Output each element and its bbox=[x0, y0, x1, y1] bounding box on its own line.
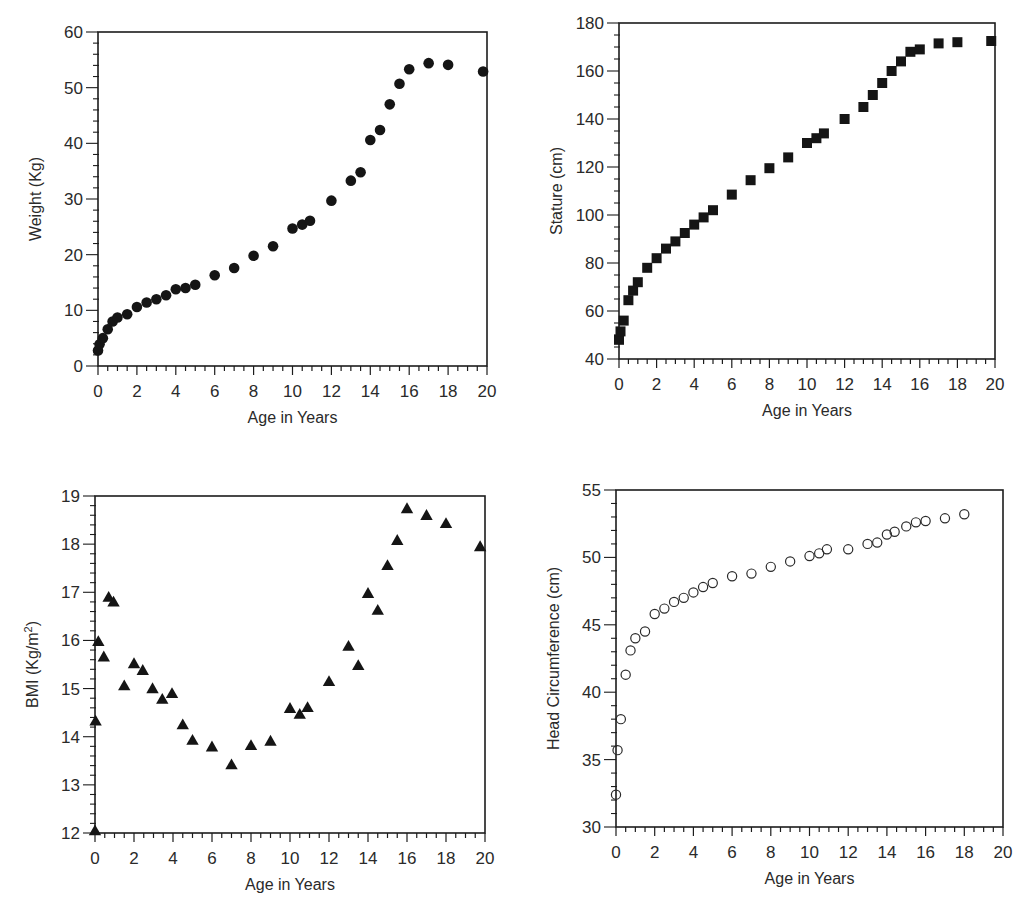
y-tick-label: 35 bbox=[582, 751, 601, 770]
x-tick-label: 20 bbox=[476, 849, 495, 868]
data-point-circle bbox=[141, 297, 152, 308]
data-point-triangle bbox=[225, 758, 237, 769]
data-point-triangle bbox=[146, 682, 158, 693]
y-tick-label: 60 bbox=[585, 302, 604, 321]
x-tick-label: 16 bbox=[910, 375, 929, 394]
data-series-stature bbox=[614, 36, 996, 345]
data-point-triangle bbox=[166, 687, 178, 698]
data-point-square bbox=[727, 190, 737, 200]
y-tick-label: 14 bbox=[61, 728, 80, 747]
data-point-square bbox=[783, 152, 793, 162]
x-tick-label: 18 bbox=[955, 843, 974, 862]
y-tick-label: 60 bbox=[64, 23, 83, 42]
y-tick-label: 10 bbox=[64, 301, 83, 320]
data-point-circle bbox=[394, 78, 405, 89]
data-point-open-circle bbox=[805, 551, 814, 560]
data-point-circle bbox=[326, 195, 337, 206]
data-point-triangle bbox=[284, 702, 296, 713]
chart-head-circumference: 02468101214161820303540455055Age in Year… bbox=[545, 481, 1012, 887]
data-point-open-circle bbox=[669, 597, 678, 606]
y-tick-label: 50 bbox=[582, 548, 601, 567]
x-tick-label: 12 bbox=[322, 382, 341, 401]
data-point-square bbox=[708, 205, 718, 215]
data-point-square bbox=[764, 163, 774, 173]
data-point-triangle bbox=[89, 824, 101, 835]
data-point-open-circle bbox=[631, 634, 640, 643]
x-tick-label: 4 bbox=[689, 843, 698, 862]
y-tick-label: 30 bbox=[582, 818, 601, 837]
data-point-square bbox=[616, 326, 626, 336]
x-tick-label: 2 bbox=[132, 382, 141, 401]
data-point-triangle bbox=[118, 679, 130, 690]
data-point-circle bbox=[355, 167, 366, 178]
x-tick-label: 16 bbox=[400, 382, 419, 401]
data-point-open-circle bbox=[640, 627, 649, 636]
data-point-open-circle bbox=[921, 516, 930, 525]
data-point-square bbox=[934, 38, 944, 48]
x-tick-label: 6 bbox=[210, 382, 219, 401]
x-tick-label: 8 bbox=[249, 382, 258, 401]
data-point-triangle bbox=[323, 675, 335, 686]
data-point-circle bbox=[375, 125, 386, 136]
y-axis-title: Stature (cm) bbox=[548, 147, 565, 235]
data-point-open-circle bbox=[679, 593, 688, 602]
x-axis-title: Age in Years bbox=[245, 876, 335, 893]
data-point-triangle bbox=[245, 739, 257, 750]
x-axis-title: Age in Years bbox=[765, 870, 855, 887]
data-point-square bbox=[986, 36, 996, 46]
data-point-triangle bbox=[401, 502, 413, 513]
y-tick-label: 15 bbox=[61, 680, 80, 699]
data-point-square bbox=[905, 47, 915, 57]
y-tick-label: 120 bbox=[576, 158, 604, 177]
y-tick-label: 20 bbox=[64, 246, 83, 265]
y-tick-label: 50 bbox=[64, 79, 83, 98]
data-point-square bbox=[952, 37, 962, 47]
y-tick-label: 30 bbox=[64, 190, 83, 209]
y-tick-label: 80 bbox=[585, 254, 604, 273]
data-point-circle bbox=[151, 294, 162, 305]
data-point-square bbox=[642, 263, 652, 273]
data-point-open-circle bbox=[902, 522, 911, 531]
x-axis-ticks bbox=[95, 833, 485, 842]
data-point-open-circle bbox=[613, 746, 622, 755]
y-tick-label: 18 bbox=[61, 535, 80, 554]
data-point-open-circle bbox=[650, 609, 659, 618]
x-tick-label: 16 bbox=[398, 849, 417, 868]
y-axis-title: Head Circumference (cm) bbox=[545, 567, 562, 750]
data-point-square bbox=[652, 253, 662, 263]
x-tick-label: 16 bbox=[916, 843, 935, 862]
x-tick-label: 14 bbox=[877, 843, 896, 862]
x-tick-label: 20 bbox=[478, 382, 497, 401]
data-point-triangle bbox=[264, 735, 276, 746]
y-tick-label: 17 bbox=[61, 583, 80, 602]
data-point-open-circle bbox=[626, 646, 635, 655]
data-point-square bbox=[858, 102, 868, 112]
data-point-square bbox=[896, 56, 906, 66]
data-point-open-circle bbox=[863, 539, 872, 548]
data-point-circle bbox=[122, 309, 133, 320]
data-point-triangle bbox=[156, 693, 168, 704]
x-tick-label: 4 bbox=[689, 375, 698, 394]
y-tick-label: 55 bbox=[582, 481, 601, 500]
x-tick-label: 10 bbox=[798, 375, 817, 394]
data-point-triangle bbox=[186, 734, 198, 745]
data-point-square bbox=[887, 66, 897, 76]
data-point-open-circle bbox=[766, 562, 775, 571]
x-tick-label: 14 bbox=[873, 375, 892, 394]
data-point-triangle bbox=[352, 659, 364, 670]
data-point-square bbox=[623, 295, 633, 305]
data-point-square bbox=[670, 236, 680, 246]
data-point-open-circle bbox=[689, 588, 698, 597]
data-point-square bbox=[868, 90, 878, 100]
data-point-open-circle bbox=[844, 545, 853, 554]
y-tick-label: 40 bbox=[582, 683, 601, 702]
data-point-circle bbox=[346, 175, 357, 186]
x-tick-label: 0 bbox=[614, 375, 623, 394]
data-point-circle bbox=[404, 64, 415, 75]
x-tick-label: 6 bbox=[727, 843, 736, 862]
chart-bmi: 024681012141618201213141516171819Age in … bbox=[22, 487, 494, 893]
y-tick-label: 140 bbox=[576, 110, 604, 129]
data-point-circle bbox=[98, 333, 109, 344]
y-tick-label: 45 bbox=[582, 616, 601, 635]
plot-frame bbox=[95, 496, 485, 833]
